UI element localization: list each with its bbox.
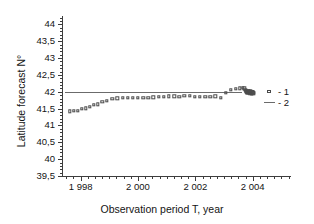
x-tick-minor	[102, 177, 103, 179]
data-point-marker	[183, 94, 186, 97]
data-point-marker	[126, 96, 129, 99]
data-point-marker	[229, 88, 232, 91]
data-point-marker	[80, 107, 83, 110]
y-tick-label: 44	[0, 18, 55, 29]
legend-item-2[interactable]: - 2	[262, 97, 289, 108]
legend: - 1 - 2	[262, 86, 289, 108]
x-tick-minor	[73, 177, 74, 179]
data-point-marker	[224, 91, 227, 94]
x-tick-label: 2 000	[126, 181, 150, 192]
x-tick-minor	[217, 177, 218, 179]
data-point-marker	[188, 94, 191, 97]
data-point-marker	[136, 96, 139, 99]
y-tick-label: 43,5	[0, 35, 55, 46]
data-point-marker	[152, 95, 155, 98]
data-point-marker	[84, 107, 87, 110]
legend-label-1: - 1	[278, 86, 289, 97]
x-tick-minor	[95, 177, 96, 179]
data-point-marker	[178, 95, 181, 98]
reference-line-series-2	[65, 92, 242, 93]
x-tick-minor	[181, 177, 182, 179]
data-point-marker	[121, 96, 124, 99]
y-tick-label: 40	[0, 153, 55, 164]
x-tick-minor	[66, 177, 67, 179]
data-point-marker	[101, 100, 104, 103]
x-axis-title: Observation period T, year	[62, 203, 262, 215]
data-point-marker	[131, 96, 134, 99]
data-point-marker	[162, 95, 165, 98]
x-tick-label: 1 998	[69, 181, 93, 192]
x-tick-minor	[289, 177, 290, 179]
x-tick-minor	[167, 177, 168, 179]
data-point-marker	[203, 95, 206, 98]
x-tick-minor	[231, 177, 232, 179]
chart-figure: Latitude forecast N° Observation period …	[0, 0, 314, 224]
x-tick-minor	[260, 177, 261, 179]
data-point-marker	[105, 99, 108, 102]
data-point-marker	[209, 95, 212, 98]
x-tick-minor	[174, 177, 175, 179]
y-tick-label: 42,5	[0, 69, 55, 80]
data-point-marker	[214, 94, 217, 97]
x-tick-minor	[145, 177, 146, 179]
x-tick-minor	[160, 177, 161, 179]
data-point-marker	[110, 97, 113, 100]
x-tick-minor	[246, 177, 247, 179]
x-tick-minor	[131, 177, 132, 179]
data-point-marker	[198, 95, 201, 98]
y-tick-label: 42	[0, 86, 55, 97]
x-axis-line	[62, 176, 291, 177]
y-tick-label: 41	[0, 119, 55, 130]
plot-area	[62, 16, 290, 176]
x-tick-minor	[88, 177, 89, 179]
data-point-marker	[72, 109, 75, 112]
data-point-marker	[96, 103, 99, 106]
y-tick-label: 41,5	[0, 103, 55, 114]
x-tick-minor	[203, 177, 204, 179]
x-tick-minor	[274, 177, 275, 179]
data-point-marker	[252, 91, 255, 94]
data-point-marker	[193, 95, 196, 98]
y-tick-label: 43	[0, 52, 55, 63]
legend-marker-line-icon	[262, 102, 276, 103]
data-point-marker	[92, 103, 95, 106]
legend-label-2: - 2	[278, 97, 289, 108]
data-point-marker	[157, 95, 160, 98]
x-tick-minor	[124, 177, 125, 179]
data-point-marker	[172, 94, 175, 97]
x-tick-minor	[152, 177, 153, 179]
x-tick-label: 2 002	[183, 181, 207, 192]
x-tick-minor	[224, 177, 225, 179]
legend-item-1[interactable]: - 1	[262, 86, 289, 97]
x-tick-minor	[109, 177, 110, 179]
data-point-marker	[147, 96, 150, 99]
y-tick-label: 40,5	[0, 136, 55, 147]
x-tick-minor	[267, 177, 268, 179]
data-point-marker	[167, 94, 170, 97]
data-point-marker	[88, 105, 91, 108]
data-point-marker	[219, 96, 222, 99]
x-tick-minor	[188, 177, 189, 179]
x-tick-minor	[210, 177, 211, 179]
data-point-marker	[68, 110, 71, 113]
data-point-marker	[76, 109, 79, 112]
data-point-marker	[234, 87, 237, 90]
data-point-marker	[116, 96, 119, 99]
x-tick-minor	[238, 177, 239, 179]
legend-marker-square-icon	[262, 90, 276, 93]
data-point-marker	[141, 96, 144, 99]
y-tick-label: 39,5	[0, 170, 55, 181]
x-tick-label: 2 004	[241, 181, 265, 192]
x-tick-minor	[116, 177, 117, 179]
x-tick-minor	[281, 177, 282, 179]
